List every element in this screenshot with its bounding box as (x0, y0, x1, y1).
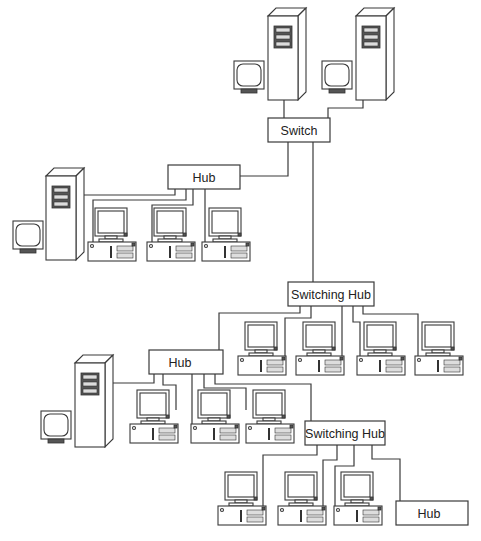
hub-mid-label: Hub (169, 356, 192, 370)
workstation-11 (218, 472, 266, 525)
monitor-1 (234, 61, 264, 93)
workstation-8 (130, 390, 178, 443)
server-4 (75, 355, 113, 447)
switching-hub-low-label: Switching Hub (305, 427, 385, 441)
hub-bottom-label: Hub (418, 507, 441, 521)
hub-top-label: Hub (193, 171, 216, 185)
workstation-10 (246, 390, 294, 443)
switch-label: Switch (281, 124, 318, 138)
workstation-12 (278, 472, 326, 525)
switch-node: Switch (268, 118, 330, 142)
monitor-2 (322, 61, 352, 93)
hub-top-node: Hub (168, 165, 240, 189)
switching-hub-mid-label: Switching Hub (291, 288, 371, 302)
network-diagram: Switch Hub Switching Hub Hub Switching H… (0, 0, 481, 541)
server-3 (46, 168, 84, 260)
workstation-7 (415, 322, 463, 375)
workstation-3 (202, 208, 250, 261)
workstation-6 (357, 322, 405, 375)
workstation-13 (334, 472, 382, 525)
server-1 (268, 8, 306, 100)
workstation-1 (88, 208, 136, 261)
hub-bottom-node: Hub (396, 501, 468, 525)
monitor-3 (13, 221, 43, 253)
monitor-4 (41, 411, 71, 443)
workstation-9 (191, 390, 239, 443)
workstation-2 (147, 208, 195, 261)
switching-hub-mid-node: Switching Hub (288, 282, 374, 306)
hub-mid-node: Hub (149, 350, 223, 374)
switching-hub-low-node: Switching Hub (305, 421, 385, 445)
workstation-5 (296, 322, 344, 375)
server-2 (356, 8, 394, 100)
workstation-4 (238, 322, 286, 375)
